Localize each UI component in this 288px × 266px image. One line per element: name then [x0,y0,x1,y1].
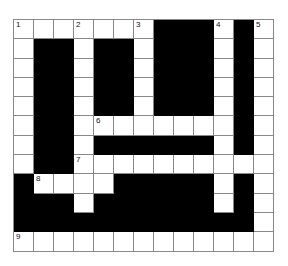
answer-cell[interactable] [14,39,34,58]
answer-cell[interactable] [174,155,194,174]
answer-cell[interactable] [14,59,34,78]
answer-cell[interactable]: 4 [214,20,234,39]
answer-cell[interactable] [254,136,274,155]
answer-cell[interactable] [74,174,94,193]
answer-cell[interactable] [14,155,34,174]
answer-cell[interactable] [54,232,74,251]
clue-number: 1 [16,20,20,29]
answer-cell[interactable] [114,155,134,174]
answer-cell[interactable] [134,232,154,251]
answer-cell[interactable] [34,232,54,251]
block-cell [54,116,74,135]
answer-cell[interactable] [254,39,274,58]
answer-cell[interactable] [134,78,154,97]
answer-cell[interactable] [134,59,154,78]
block-cell [114,136,134,155]
answer-cell[interactable] [234,155,254,174]
answer-cell[interactable]: 7 [74,155,94,174]
answer-cell[interactable] [74,39,94,58]
answer-cell[interactable] [254,194,274,213]
block-cell [174,39,194,58]
answer-cell[interactable] [254,155,274,174]
answer-cell[interactable] [154,155,174,174]
answer-cell[interactable]: 3 [134,20,154,39]
answer-cell[interactable] [214,194,234,213]
answer-cell[interactable] [234,232,254,251]
answer-cell[interactable] [214,116,234,135]
clue-number: 8 [36,174,40,183]
answer-cell[interactable] [254,97,274,116]
block-cell [234,174,254,193]
answer-cell[interactable] [94,20,114,39]
answer-cell[interactable] [54,20,74,39]
answer-cell[interactable] [74,194,94,213]
answer-cell[interactable] [114,232,134,251]
answer-cell[interactable] [74,136,94,155]
answer-cell[interactable] [254,78,274,97]
clue-number: 4 [216,20,220,29]
answer-cell[interactable] [114,116,134,135]
answer-cell[interactable]: 5 [254,20,274,39]
block-cell [154,59,174,78]
block-cell [94,59,114,78]
block-cell [234,213,254,232]
clue-number: 3 [136,20,140,29]
answer-cell[interactable]: 8 [34,174,54,193]
block-cell [94,213,114,232]
answer-cell[interactable] [34,20,54,39]
answer-cell[interactable] [74,97,94,116]
answer-cell[interactable] [14,78,34,97]
answer-cell[interactable] [154,116,174,135]
answer-cell[interactable] [214,232,234,251]
answer-cell[interactable]: 1 [14,20,34,39]
answer-cell[interactable] [134,97,154,116]
block-cell [134,213,154,232]
answer-cell[interactable] [254,232,274,251]
answer-cell[interactable] [194,116,214,135]
answer-cell[interactable] [14,116,34,135]
answer-cell[interactable] [134,116,154,135]
clue-number: 2 [76,20,80,29]
answer-cell[interactable] [14,97,34,116]
answer-cell[interactable] [214,155,234,174]
answer-cell[interactable] [194,232,214,251]
answer-cell[interactable] [214,136,234,155]
block-cell [174,97,194,116]
answer-cell[interactable]: 2 [74,20,94,39]
answer-cell[interactable] [174,232,194,251]
block-cell [194,59,214,78]
answer-cell[interactable] [74,116,94,135]
answer-cell[interactable] [254,213,274,232]
answer-cell[interactable] [214,59,234,78]
answer-cell[interactable] [254,116,274,135]
answer-cell[interactable] [94,155,114,174]
answer-cell[interactable] [114,20,134,39]
block-cell [154,97,174,116]
answer-cell[interactable] [254,59,274,78]
block-cell [134,136,154,155]
answer-cell[interactable]: 9 [14,232,34,251]
answer-cell[interactable] [134,155,154,174]
answer-cell[interactable] [74,232,94,251]
answer-cell[interactable] [254,174,274,193]
answer-cell[interactable] [94,232,114,251]
block-cell [214,213,234,232]
answer-cell[interactable] [214,39,234,58]
answer-cell[interactable] [174,116,194,135]
block-cell [94,194,114,213]
block-cell [94,39,114,58]
answer-cell[interactable] [154,232,174,251]
answer-cell[interactable]: 6 [94,116,114,135]
block-cell [34,116,54,135]
answer-cell[interactable] [214,97,234,116]
answer-cell[interactable] [94,174,114,193]
block-cell [234,116,254,135]
answer-cell[interactable] [14,136,34,155]
answer-cell[interactable] [194,155,214,174]
answer-cell[interactable] [214,174,234,193]
answer-cell[interactable] [74,78,94,97]
answer-cell[interactable] [214,78,234,97]
answer-cell[interactable] [74,59,94,78]
answer-cell[interactable] [134,39,154,58]
answer-cell[interactable] [54,174,74,193]
